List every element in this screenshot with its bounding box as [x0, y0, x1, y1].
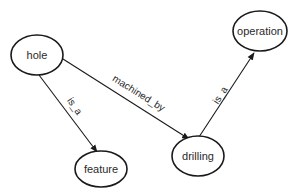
node-label-hole: hole	[27, 49, 48, 61]
node-label-feature: feature	[84, 163, 118, 175]
node-feature: feature	[75, 151, 127, 187]
node-operation: operation	[233, 11, 287, 51]
node-hole: hole	[11, 35, 63, 75]
edge-hole-is-a-feature	[39, 75, 97, 152]
node-label-operation: operation	[237, 25, 283, 37]
edge-hole-machined-by-drilling	[63, 59, 189, 139]
node-label-drilling: drilling	[182, 150, 214, 162]
node-drilling: drilling	[172, 136, 224, 176]
semantic-network-diagram: machined_by is_a is_a hole operation fea…	[0, 0, 294, 194]
